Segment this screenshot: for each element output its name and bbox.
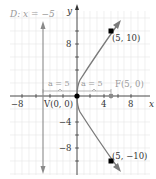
tick-y-neg8: −8 (59, 143, 72, 153)
arrow-up-icon (41, 21, 46, 29)
x-axis (10, 94, 150, 98)
directrix-label: D: x = −5 (9, 9, 55, 19)
tick-y-8: 8 (66, 39, 71, 49)
y-axis-label: y (66, 6, 73, 16)
arrow-up-right-icon (113, 20, 121, 29)
vertex-label: V(0, 0) (43, 99, 73, 109)
arrow-down-icon (41, 166, 46, 174)
point-bottom-label: (5, −10) (112, 151, 147, 161)
a-right-label: a = 5 (81, 79, 103, 88)
a-left-label: a = 5 (48, 79, 70, 88)
focus-label: F(5, 0) (115, 79, 144, 89)
vertex-point (74, 93, 79, 98)
tick-x-neg8: −8 (11, 99, 24, 109)
arrow-down-right-icon (113, 163, 121, 172)
y-axis-arrow-icon (75, 4, 79, 10)
focus-point (109, 94, 114, 99)
x-axis-label: x (149, 99, 154, 109)
point-top-label: (5, 10) (112, 33, 140, 43)
tick-x-8: 8 (128, 99, 133, 109)
tick-y-neg4: −4 (59, 117, 72, 127)
parabola-chart: D: x = −5 y x −8 4 8 8 −4 −8 V(0, 0) F(5… (0, 0, 156, 179)
tick-x-4: 4 (101, 99, 106, 109)
